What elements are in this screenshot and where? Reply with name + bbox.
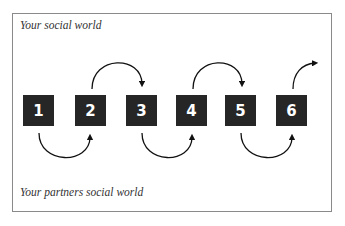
arrow-3-to-4 <box>142 133 192 158</box>
arrow-6-out <box>293 63 315 89</box>
arrow-4-to-5 <box>193 63 242 89</box>
flow-arrows <box>0 0 345 226</box>
arrow-1-to-2 <box>39 133 90 158</box>
arrow-2-to-3 <box>92 63 142 89</box>
arrow-5-to-6 <box>241 133 292 158</box>
